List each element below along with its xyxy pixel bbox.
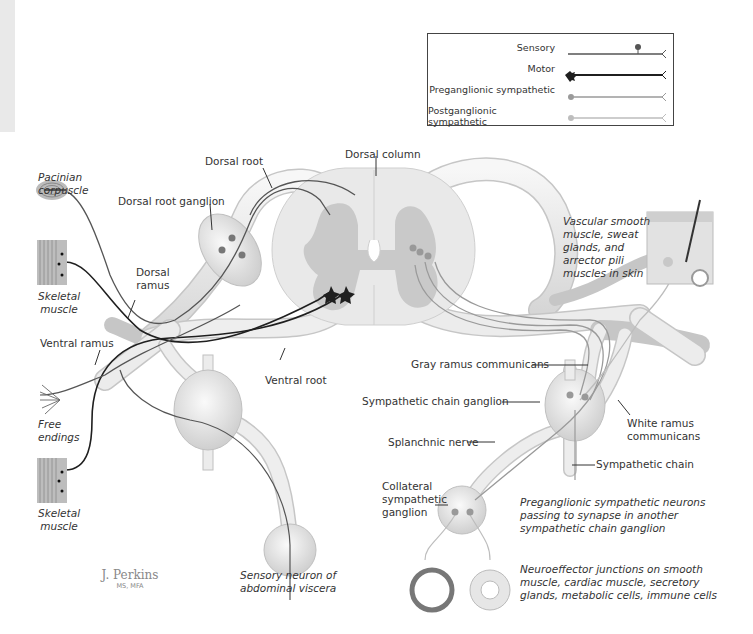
label-sympathetic-chain-ganglion: Sympathetic chain ganglion <box>362 395 509 408</box>
label-dorsal-column: Dorsal column <box>345 148 421 161</box>
label-free-endings: Free endings <box>38 418 80 444</box>
label-vascular-smooth-muscle: Vascular smooth muscle, sweat glands, an… <box>563 215 650 280</box>
artist-signature: J. Perkins MS, MFA <box>80 568 180 590</box>
signature-name: J. Perkins <box>80 568 180 582</box>
spinal-cord <box>272 168 475 325</box>
preganglionic-symbol-icon <box>568 93 666 101</box>
sensory-symbol-icon <box>568 44 666 58</box>
smooth-muscle-vessel-icon <box>412 570 452 610</box>
label-preganglionic-passing: Preganglionic sympathetic neurons passin… <box>520 496 706 535</box>
legend: Sensory Motor Preganglionic sympathetic … <box>427 33 674 126</box>
label-dorsal-root-ganglion: Dorsal root ganglion <box>118 195 225 208</box>
label-skeletal-muscle-bottom: Skeletal muscle <box>38 507 80 533</box>
label-skeletal-muscle-top: Skeletal muscle <box>38 290 80 316</box>
secretory-gland-icon <box>470 570 510 610</box>
free-endings-icon <box>40 385 60 414</box>
left-sympathetic-ganglion-shape <box>174 370 242 450</box>
skeletal-muscle-bottom-icon <box>37 458 67 503</box>
label-white-ramus: White ramus communicans <box>627 417 700 443</box>
skeletal-muscle-top-icon <box>37 240 67 285</box>
label-sensory-neuron-viscera: Sensory neuron of abdominal viscera <box>240 569 336 595</box>
label-ventral-ramus: Ventral ramus <box>40 337 114 350</box>
motor-symbol-icon <box>565 71 666 82</box>
skin-inset-icon <box>647 200 713 286</box>
label-dorsal-ramus: Dorsal ramus <box>136 266 170 292</box>
label-neuroeffector: Neuroeffector junctions on smooth muscle… <box>520 563 717 602</box>
label-ventral-root: Ventral root <box>265 374 327 387</box>
label-sympathetic-chain: Sympathetic chain <box>596 458 694 471</box>
label-splanchnic-nerve: Splanchnic nerve <box>388 436 479 449</box>
label-pacinian-corpuscle: Pacinian corpuscle <box>38 171 88 197</box>
label-gray-ramus: Gray ramus communicans <box>411 358 549 371</box>
label-collateral-ganglion: Collateral sympathetic ganglion <box>382 480 447 519</box>
label-dorsal-root: Dorsal root <box>205 155 263 168</box>
legend-symbols <box>428 34 673 125</box>
postganglionic-symbol-icon <box>568 114 666 122</box>
signature-credentials: MS, MFA <box>80 582 180 590</box>
